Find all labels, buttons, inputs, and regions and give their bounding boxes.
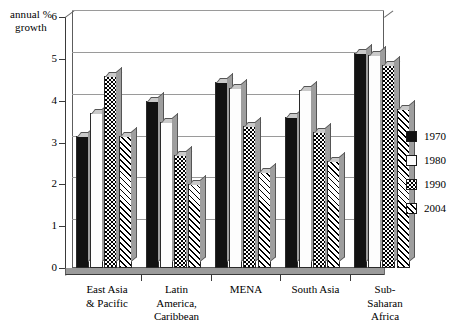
- legend-item-2004: 2004: [406, 199, 466, 223]
- x-axis-label-line: Saharan: [341, 297, 429, 311]
- bar-1990-latin-america-caribbean: [174, 155, 187, 268]
- legend-swatch-checkerboard: [406, 179, 417, 190]
- x-axis-label-line: America,: [133, 297, 221, 311]
- bar-1980-sub-saharan-africa: [368, 55, 381, 268]
- x-axis-category-label: Sub-SaharanAfrica: [341, 283, 429, 324]
- bar-chart: annual % growth 0123456 East Asia& Pacif…: [0, 0, 466, 330]
- bar-1970-mena: [215, 82, 228, 268]
- legend: 1970198019902004: [406, 127, 466, 223]
- x-axis-tick: [350, 275, 351, 281]
- bar-2004-mena: [258, 172, 271, 268]
- legend-item-1980: 1980: [406, 151, 466, 175]
- bar-1980-mena: [229, 88, 242, 268]
- bar-side-face: [339, 152, 345, 262]
- x-axis-tick: [211, 275, 212, 281]
- bar-2004-latin-america-caribbean: [188, 184, 201, 268]
- bar-side-face: [200, 175, 206, 262]
- bar-2004-south-asia: [327, 161, 340, 268]
- x-axis-label-line: Sub-: [341, 283, 429, 297]
- bar-1980-latin-america-caribbean: [160, 122, 173, 268]
- x-axis-tick: [141, 275, 142, 281]
- bar-side-face: [270, 163, 276, 262]
- bar-1990-east-asia-pacific: [104, 76, 117, 268]
- bar-1970-east-asia-pacific: [76, 136, 89, 268]
- legend-item-1970: 1970: [406, 127, 466, 151]
- legend-label: 1970: [424, 129, 446, 143]
- x-axis-label-line: Africa: [341, 310, 429, 324]
- legend-label: 1980: [424, 153, 446, 167]
- legend-item-1990: 1990: [406, 175, 466, 199]
- bar-1990-mena: [243, 126, 256, 268]
- bar-2004-east-asia-pacific: [119, 136, 132, 268]
- legend-label: 1990: [424, 177, 446, 191]
- legend-label: 2004: [424, 201, 446, 215]
- bar-1970-sub-saharan-africa: [354, 53, 367, 268]
- x-axis-tick: [280, 275, 281, 281]
- bar-1980-east-asia-pacific: [90, 113, 103, 268]
- legend-swatch-solid-black: [406, 131, 417, 142]
- x-axis-label-line: Caribbean: [133, 310, 221, 324]
- bar-1990-south-asia: [313, 132, 326, 268]
- bar-side-face: [131, 127, 137, 262]
- bar-1980-south-asia: [299, 90, 312, 268]
- bars-layer: [0, 0, 466, 330]
- bar-1970-south-asia: [285, 117, 298, 268]
- bar-1970-latin-america-caribbean: [146, 101, 159, 268]
- legend-swatch-diagonal-hatch: [406, 203, 417, 214]
- legend-swatch-solid-white: [406, 155, 417, 166]
- bar-1990-sub-saharan-africa: [382, 65, 395, 268]
